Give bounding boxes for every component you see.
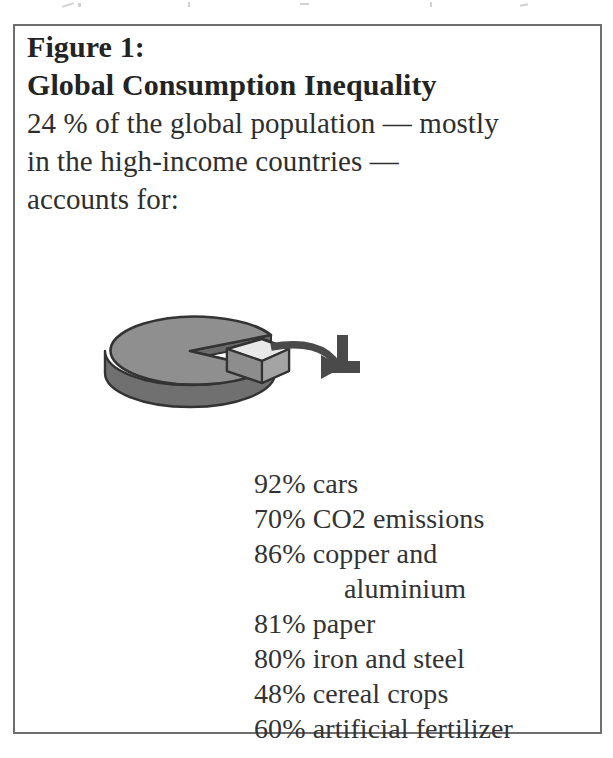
figure-box: Figure 1: Global Consumption Inequality … [13, 24, 602, 734]
list-item: 80% iron and steel [254, 641, 594, 676]
figure-header: Figure 1: Global Consumption Inequality … [27, 28, 593, 218]
list-item-label: paper [313, 608, 376, 639]
list-item-percent: 80% [254, 643, 306, 674]
list-item-label: iron and steel [313, 643, 465, 674]
list-item-continuation: aluminium [254, 571, 594, 606]
list-item-label: CO2 emissions [313, 503, 485, 534]
list-item: 86% copper and [254, 536, 594, 571]
list-item-percent: 70% [254, 503, 306, 534]
list-item: 92% cars [254, 466, 594, 501]
figure-description-line-3: accounts for: [27, 180, 593, 218]
list-item: 60% artificial fertilizer [254, 711, 594, 746]
list-item: 81% paper [254, 606, 594, 641]
consumption-list: 92% cars 70% CO2 emissions 86% copper an… [254, 466, 594, 746]
figure-title: Global Consumption Inequality [27, 66, 593, 104]
list-item-label: artificial fertilizer [313, 713, 513, 744]
list-item-percent: 92% [254, 468, 306, 499]
list-item-label: copper and [313, 538, 438, 569]
list-item-percent: 81% [254, 608, 306, 639]
list-item: 70% CO2 emissions [254, 501, 594, 536]
list-item-percent: 86% [254, 538, 306, 569]
list-item-percent: 48% [254, 678, 306, 709]
list-item-percent: 60% [254, 713, 306, 744]
list-item: 48% cereal crops [254, 676, 594, 711]
list-item-label: cereal crops [313, 678, 449, 709]
figure-description-line-1: 24 % of the global population — mostly [27, 104, 593, 142]
pie-chart-3d-icon [75, 291, 365, 416]
figure-label: Figure 1: [27, 28, 593, 66]
list-item-label: cars [313, 468, 358, 499]
figure-description-line-2: in the high-income countries — [27, 142, 593, 180]
scan-artifact-top-text [0, 0, 613, 14]
